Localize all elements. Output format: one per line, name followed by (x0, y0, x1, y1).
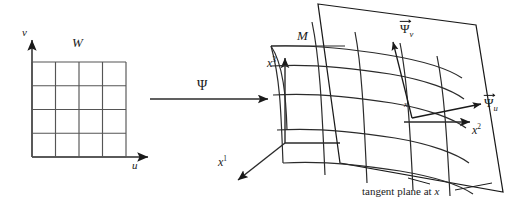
mapping-psi-label: Ψ (197, 79, 207, 93)
u-axis-label: u (132, 160, 138, 171)
psi-v-vector-label: Ψv (400, 22, 413, 38)
x3-axis-label: x3 (267, 56, 276, 69)
tangent-plane-caption-text: tangent plane at (362, 185, 434, 197)
surface-point-label: x (404, 101, 408, 109)
x2-axis-label: x2 (472, 123, 481, 136)
surface-v-curves (271, 22, 450, 196)
parameter-domain-panel (32, 40, 148, 157)
psi-u-vector-arrow (412, 104, 481, 118)
domain-grid (32, 62, 126, 157)
psi-u-label-base: Ψ (484, 95, 494, 110)
figure-parametrization-diagram: v u W Ψ M x3 x1 x2 Ψv Ψu x tangent plane… (0, 0, 527, 208)
x1-axis-label: x1 (218, 155, 227, 168)
psi-v-label-base: Ψ (400, 21, 410, 36)
psi-u-symbol-wrapper: Ψ (484, 96, 494, 109)
psi-u-vector-label: Ψu (484, 96, 498, 112)
manifold-label: M (297, 29, 308, 42)
x1-axis-arrow (238, 143, 285, 180)
psi-v-vector-arrow (393, 42, 412, 118)
domain-region-label: W (72, 36, 83, 49)
surface-u-curves (271, 46, 473, 194)
v-axis-label: v (22, 27, 27, 38)
psi-u-label-subscript: u (494, 103, 498, 113)
psi-v-label-subscript: v (410, 29, 414, 39)
psi-v-symbol-wrapper: Ψ (400, 22, 410, 35)
tangent-plane-caption: tangent plane at x (362, 186, 439, 197)
x1-axis-label-exponent: 1 (223, 154, 227, 163)
diagram-canvas (0, 0, 527, 208)
x2-axis-label-exponent: 2 (477, 122, 481, 131)
x3-axis-label-exponent: 3 (272, 55, 276, 64)
manifold-panel (238, 4, 503, 196)
tangent-plane-caption-point: x (434, 185, 439, 197)
